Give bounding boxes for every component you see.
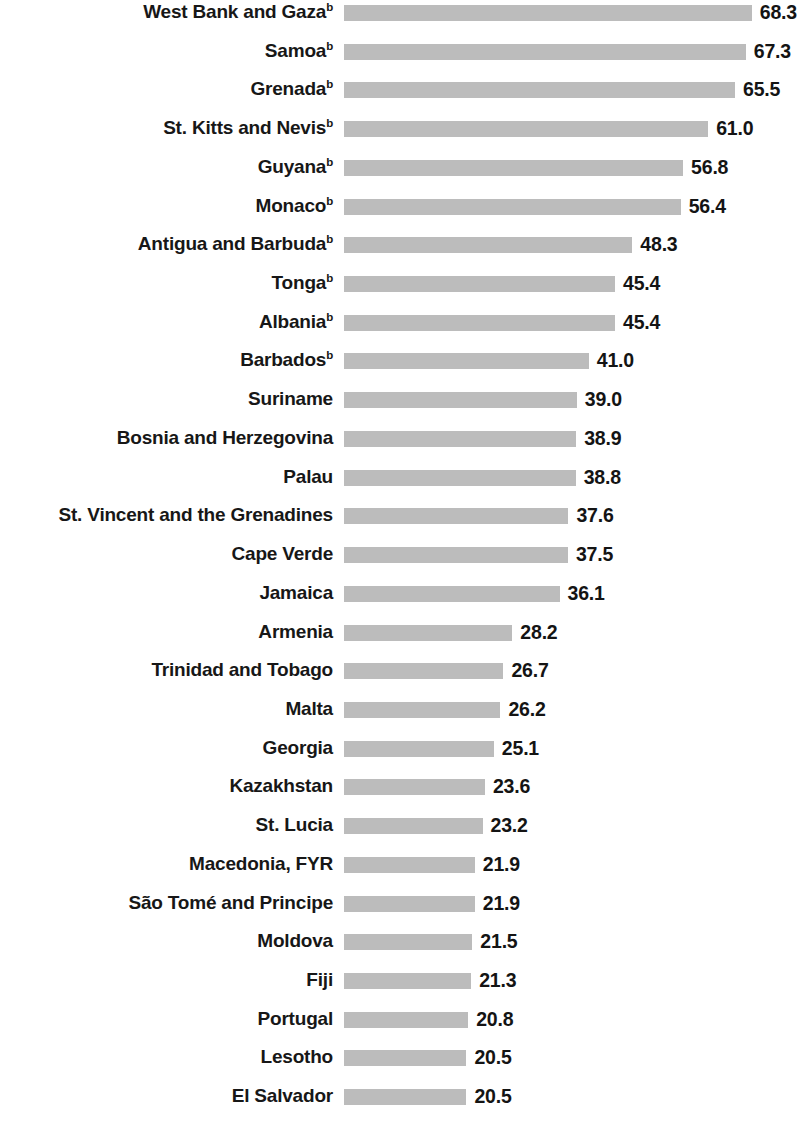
bar-row: Moldova21.5	[0, 934, 812, 973]
bar-track: 37.5	[344, 547, 812, 563]
category-label: Monacob	[0, 198, 333, 214]
bar-track: 21.9	[344, 896, 812, 912]
bar-row: Suriname39.0	[0, 392, 812, 431]
bar-row: Lesotho20.5	[0, 1050, 812, 1089]
bar-row: Palau38.8	[0, 470, 812, 509]
bar-row: Guyanab56.8	[0, 160, 812, 199]
bar-track: 20.5	[344, 1050, 812, 1066]
category-label: Palau	[0, 469, 333, 485]
bar-row: Macedonia, FYR21.9	[0, 857, 812, 896]
bar-row: Kazakhstan23.6	[0, 779, 812, 818]
bar	[344, 392, 577, 408]
bar	[344, 44, 746, 60]
bar	[344, 896, 475, 912]
category-label: Tongab	[0, 275, 333, 291]
bar-track: 65.5	[344, 82, 812, 98]
bar	[344, 741, 494, 757]
bar	[344, 276, 615, 292]
category-label: Grenadab	[0, 81, 333, 97]
category-label: El Salvador	[0, 1088, 333, 1104]
bar	[344, 702, 500, 718]
category-label: Macedonia, FYR	[0, 856, 333, 872]
bar-row: Antigua and Barbudab48.3	[0, 237, 812, 276]
bar	[344, 857, 475, 873]
bar-row: Cape Verde37.5	[0, 547, 812, 586]
footnote-marker: b	[326, 1, 333, 13]
bar-row: St. Kitts and Nevisb61.0	[0, 121, 812, 160]
bar-row: São Tomé and Principe21.9	[0, 896, 812, 935]
bar-track: 28.2	[344, 625, 812, 641]
bar	[344, 1050, 466, 1066]
bar-row: Albaniab45.4	[0, 315, 812, 354]
bar-track: 38.8	[344, 470, 812, 486]
footnote-marker: b	[326, 233, 333, 245]
bar	[344, 586, 560, 602]
category-label: St. Vincent and the Grenadines	[0, 507, 333, 523]
bar-row: Monacob56.4	[0, 199, 812, 238]
bar	[344, 663, 503, 679]
category-label: Lesotho	[0, 1049, 333, 1065]
footnote-marker: b	[326, 39, 333, 51]
value-label: 65.5	[743, 81, 780, 97]
footnote-marker: b	[326, 117, 333, 129]
footnote-marker: b	[326, 156, 333, 168]
bar	[344, 431, 576, 447]
bar	[344, 315, 615, 331]
category-label: Albaniab	[0, 314, 333, 330]
value-label: 38.9	[584, 430, 621, 446]
footnote-marker: b	[326, 78, 333, 90]
category-label: Suriname	[0, 391, 333, 407]
bar-track: 68.3	[344, 5, 812, 21]
bar-row: El Salvador20.5	[0, 1089, 812, 1128]
bar-track: 48.3	[344, 237, 812, 253]
value-label: 56.8	[691, 159, 728, 175]
value-label: 26.7	[511, 662, 548, 678]
value-label: 41.0	[597, 352, 634, 368]
value-label: 21.9	[483, 856, 520, 872]
footnote-marker: b	[326, 272, 333, 284]
bar-track: 45.4	[344, 315, 812, 331]
category-label: Cape Verde	[0, 546, 333, 562]
bar-track: 56.4	[344, 199, 812, 215]
bar-track: 21.3	[344, 973, 812, 989]
bar-track: 36.1	[344, 586, 812, 602]
category-label: São Tomé and Principe	[0, 895, 333, 911]
value-label: 39.0	[585, 391, 622, 407]
bar	[344, 625, 512, 641]
bar-row: Jamaica36.1	[0, 586, 812, 625]
bar-track: 20.5	[344, 1089, 812, 1105]
bar-row: Grenadab65.5	[0, 82, 812, 121]
bar	[344, 353, 589, 369]
bar-track: 56.8	[344, 160, 812, 176]
bar	[344, 1012, 468, 1028]
bar-row: Malta26.2	[0, 702, 812, 741]
bar	[344, 973, 471, 989]
category-label: Guyanab	[0, 159, 333, 175]
value-label: 23.6	[493, 778, 530, 794]
bar-row: Trinidad and Tobago26.7	[0, 663, 812, 702]
bar-row: Georgia25.1	[0, 741, 812, 780]
bar-row: Barbadosb41.0	[0, 353, 812, 392]
value-label: 21.9	[483, 895, 520, 911]
category-label: Samoab	[0, 43, 333, 59]
value-label: 26.2	[508, 701, 545, 717]
bar-track: 41.0	[344, 353, 812, 369]
value-label: 67.3	[754, 43, 791, 59]
bar-row: Samoab67.3	[0, 44, 812, 83]
category-label: Trinidad and Tobago	[0, 662, 333, 678]
category-label: Antigua and Barbudab	[0, 236, 333, 252]
bar	[344, 1089, 466, 1105]
bar	[344, 199, 681, 215]
bar-track: 23.6	[344, 779, 812, 795]
value-label: 45.4	[623, 275, 660, 291]
bar-row: Tongab45.4	[0, 276, 812, 315]
bar-track: 67.3	[344, 44, 812, 60]
bar-row: St. Vincent and the Grenadines37.6	[0, 508, 812, 547]
bar-track: 61.0	[344, 121, 812, 137]
value-label: 37.6	[576, 507, 613, 523]
value-label: 37.5	[576, 546, 613, 562]
value-label: 56.4	[689, 198, 726, 214]
bar-track: 45.4	[344, 276, 812, 292]
value-label: 48.3	[640, 236, 677, 252]
bar	[344, 121, 708, 137]
